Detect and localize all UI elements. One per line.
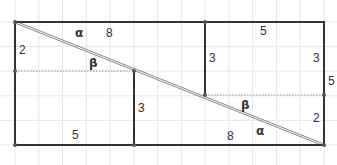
left-2-label: 2 (19, 43, 26, 57)
point (203, 93, 207, 97)
point (13, 20, 17, 24)
point (132, 69, 136, 73)
bottom-right-8-label: 8 (227, 129, 234, 143)
beta-top-label: β (89, 56, 98, 70)
point (322, 143, 326, 147)
dissection-diagram: α 8 2 β 5 3 3 5 3 β 2 5 8 α (0, 0, 337, 165)
top-right-5-label: 5 (260, 24, 267, 38)
right-3-label: 3 (313, 51, 320, 65)
diagonal-line-upper (15, 21, 324, 144)
point (13, 143, 17, 147)
outer-rectangle (15, 22, 324, 145)
point (13, 69, 17, 73)
right-outside-5-label: 5 (328, 74, 335, 88)
bottom-left-5-label: 5 (72, 128, 79, 142)
alpha-top-label: α (75, 26, 83, 40)
point (322, 93, 326, 97)
point (132, 143, 136, 147)
top-left-8-label: 8 (106, 26, 113, 40)
point (203, 20, 207, 24)
diagonal-line-lower (15, 23, 324, 146)
alpha-bottom-label: α (256, 124, 264, 138)
right-2-label: 2 (313, 111, 320, 125)
mid-right-3-label: 3 (209, 51, 216, 65)
beta-bottom-label: β (241, 98, 250, 112)
mid-left-3-label: 3 (138, 101, 145, 115)
